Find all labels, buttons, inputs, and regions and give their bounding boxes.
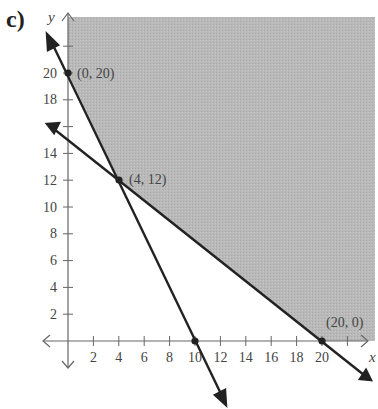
annotation-20-0: (20, 0) [326,315,364,331]
x-tick-label: 8 [166,350,173,365]
y-tick-label: 20 [43,66,57,81]
y-tick-labels: 2 4 6 8 10 12 14 18 20 [43,66,57,322]
x-tick-label: 4 [115,350,122,365]
y-tick-label: 6 [50,253,57,268]
arrowhead-icon [360,370,371,380]
y-tick-label: 4 [50,280,57,295]
x-tick-label: 12 [213,350,227,365]
point-10-0 [191,337,198,344]
x-tick-label: 18 [290,350,304,365]
arrowhead-icon [215,390,226,405]
point-4-12 [115,176,122,183]
y-tick-label: 2 [50,307,57,322]
point-0-20 [64,69,71,76]
y-tick-label: 8 [50,226,57,241]
x-tick-label: 2 [90,350,97,365]
x-tick-label: 20 [315,350,329,365]
annotation-4-12: (4, 12) [129,172,167,188]
chart: 2 4 6 8 10 12 14 16 18 20 x 2 4 6 8 10 1… [0,0,378,409]
y-tick-label: 14 [43,146,57,161]
arrowhead-icon [47,34,58,50]
x-tick-label: 6 [141,350,148,365]
y-axis-label: y [46,9,55,25]
annotation-0-20: (0, 20) [77,66,115,82]
y-tick-label: 12 [43,173,57,188]
x-tick-labels: 2 4 6 8 10 12 14 16 18 20 [90,350,329,365]
x-tick-label: 14 [239,350,253,365]
y-tick-label: 10 [43,200,57,215]
y-tick-label: 18 [43,92,57,107]
point-20-0 [318,337,325,344]
x-axis-label: x [368,349,376,365]
x-tick-label: 16 [264,350,278,365]
